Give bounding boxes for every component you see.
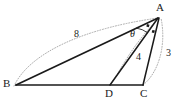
angle-arc-theta xyxy=(136,28,148,33)
angle-label-theta: θ xyxy=(130,29,135,39)
vertex-label-A: A xyxy=(156,2,164,13)
measure-label-CA: 3 xyxy=(166,48,171,58)
vertex-label-D: D xyxy=(105,88,113,99)
equal-angle-marker-2 xyxy=(152,30,155,33)
equal-angle-marker-1 xyxy=(146,24,149,27)
vertex-label-C: C xyxy=(140,88,147,99)
vertex-label-B: B xyxy=(3,78,10,89)
measure-label-DA: 4 xyxy=(136,52,141,62)
diagram-canvas xyxy=(0,0,179,108)
measure-label-BA: 8 xyxy=(74,29,79,39)
geometry-figure: A B D C 8 4 3 θ xyxy=(0,0,179,108)
